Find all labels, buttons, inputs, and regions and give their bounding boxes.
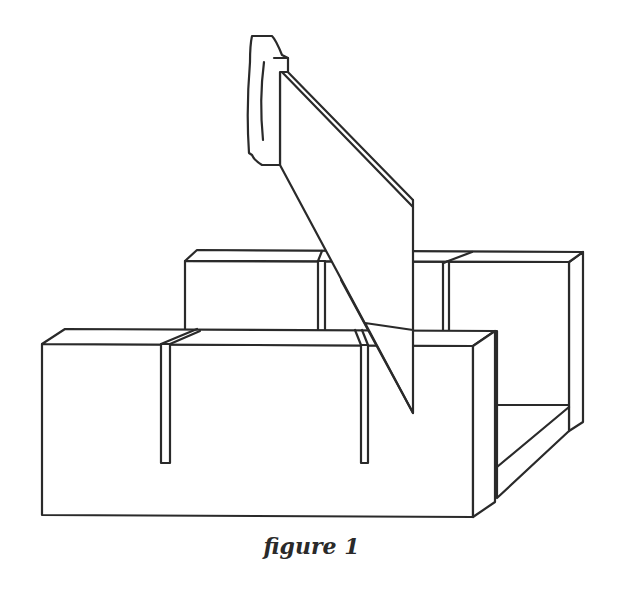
front-wall-top-face <box>42 329 495 346</box>
back-slot-right <box>443 261 449 331</box>
miter-box-illustration <box>0 0 623 591</box>
back-wall-right-face <box>569 252 583 431</box>
front-wall <box>42 329 495 517</box>
back-slot-left <box>318 261 325 331</box>
front-slot-left <box>161 344 170 463</box>
front-slot-right <box>361 345 368 463</box>
front-wall-right-face <box>473 331 495 517</box>
box-floor <box>497 405 569 498</box>
figure-caption: figure 1 <box>0 533 623 559</box>
